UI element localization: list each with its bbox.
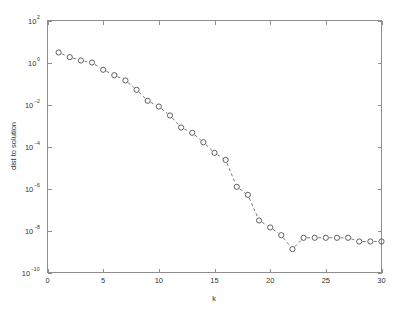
y-tick-exponent: −8 bbox=[34, 224, 40, 230]
y-tick-mantissa: 10 bbox=[28, 17, 36, 26]
y-tick-mantissa: 10 bbox=[25, 227, 33, 236]
y-tick-exponent: −10 bbox=[31, 266, 40, 272]
y-tick-exponent: 2 bbox=[37, 14, 40, 20]
y-tick-exponent: −2 bbox=[34, 98, 40, 104]
x-tick-label: 0 bbox=[45, 276, 49, 285]
y-tick-mantissa: 10 bbox=[25, 185, 33, 194]
x-axis-label: k bbox=[212, 294, 216, 303]
x-tick-label: 5 bbox=[101, 276, 105, 285]
x-tick-label: 30 bbox=[377, 276, 385, 285]
chart-background bbox=[0, 0, 393, 317]
x-tick-label: 25 bbox=[322, 276, 330, 285]
x-tick-label: 20 bbox=[266, 276, 274, 285]
x-tick-label: 10 bbox=[155, 276, 163, 285]
log-plot-chart: 051015202530 10210010−210−410−610−810−10… bbox=[0, 0, 393, 317]
y-tick-exponent: −6 bbox=[34, 182, 40, 188]
y-tick-mantissa: 10 bbox=[25, 143, 33, 152]
y-tick-mantissa: 10 bbox=[22, 269, 30, 278]
x-tick-label: 15 bbox=[210, 276, 218, 285]
y-tick-mantissa: 10 bbox=[25, 101, 33, 110]
y-tick-exponent: −4 bbox=[34, 140, 40, 146]
y-axis-label: dist to solution bbox=[9, 122, 18, 170]
y-tick-mantissa: 10 bbox=[28, 59, 36, 68]
figure-container: 051015202530 10210010−210−410−610−810−10… bbox=[0, 0, 393, 317]
y-tick-exponent: 0 bbox=[37, 56, 40, 62]
